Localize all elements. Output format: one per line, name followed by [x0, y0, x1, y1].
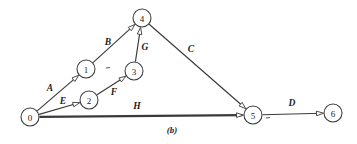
node-5: 5 [244, 106, 262, 124]
node-3: 3 [125, 62, 143, 80]
edge-d [263, 111, 324, 116]
edge-line-c [149, 24, 245, 108]
edge-label-c: C [188, 44, 195, 54]
node-label-2: 2 [87, 96, 92, 106]
node-label-3: 3 [132, 67, 137, 77]
tick-mark-1 [266, 118, 270, 119]
arrowhead-d [316, 111, 323, 116]
arrowhead-f [119, 76, 126, 82]
edge-line-h [40, 115, 243, 117]
activity-network-diagram: 0123456 ABEFGCHD (b) [0, 0, 357, 144]
arrowhead-h [236, 113, 243, 118]
edge-label-b: B [104, 37, 111, 47]
edge-line-a [37, 76, 77, 111]
node-label-5: 5 [251, 111, 256, 121]
tick-mark-0 [106, 68, 110, 69]
node-label-4: 4 [140, 14, 145, 24]
node-label-1: 1 [84, 65, 89, 75]
node-6: 6 [324, 104, 342, 122]
node-label-0: 0 [28, 113, 33, 123]
edge-line-d [263, 113, 323, 114]
arrowhead-e [73, 102, 80, 106]
diagram-canvas: 0123456 ABEFGCHD (b) [0, 0, 357, 144]
arrowhead-g [137, 27, 142, 34]
node-4: 4 [133, 9, 151, 27]
edge-h [40, 113, 244, 118]
edge-label-e: E [59, 96, 66, 106]
nodes-layer: 0123456 [21, 9, 342, 126]
edge-label-g: G [142, 42, 149, 52]
edge-c [149, 24, 246, 109]
edge-line-b [93, 25, 134, 62]
node-0: 0 [21, 108, 39, 126]
edge-label-d: D [288, 98, 296, 108]
node-1: 1 [77, 60, 95, 78]
figure-caption: (b) [167, 125, 178, 135]
edge-a [37, 75, 79, 111]
node-2: 2 [80, 91, 98, 109]
edge-label-f: F [110, 87, 118, 97]
edge-label-h: H [132, 101, 141, 111]
edge-b [93, 24, 135, 62]
node-label-6: 6 [331, 109, 336, 119]
edge-label-a: A [46, 83, 53, 93]
